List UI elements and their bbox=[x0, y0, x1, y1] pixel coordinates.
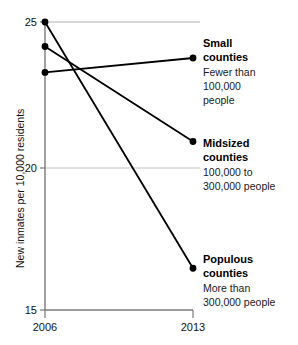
annotation-populous-sub-1: More than bbox=[203, 282, 250, 294]
line-chart: New inmates per 10,000 residents 25 20 1… bbox=[0, 0, 298, 345]
annotation-small-sub-1: Fewer than bbox=[203, 66, 256, 78]
marker-populous-2013 bbox=[190, 265, 197, 272]
annotation-small-sub-3: people bbox=[203, 94, 235, 106]
series-line-populous bbox=[45, 22, 193, 268]
annotation-populous-sub-2: 300,000 people bbox=[203, 296, 276, 308]
annotation-small-head-2: counties bbox=[203, 51, 248, 63]
y-axis-title: New inmates per 10,000 residents bbox=[14, 109, 26, 268]
marker-small-2013 bbox=[190, 55, 197, 62]
annotation-midsized-head-1: Midsized bbox=[203, 137, 249, 149]
marker-small-2006 bbox=[42, 69, 49, 76]
x-tick-label-2013: 2013 bbox=[181, 321, 205, 333]
annotation-populous-head-2: counties bbox=[203, 267, 248, 279]
annotation-midsized-counties: Midsized counties 100,000 to 300,000 peo… bbox=[203, 137, 276, 192]
marker-midsized-2013 bbox=[190, 138, 197, 145]
y-tick-label-20: 20 bbox=[25, 162, 37, 174]
annotation-populous-head-1: Populous bbox=[203, 253, 253, 265]
x-tick-label-2006: 2006 bbox=[33, 321, 57, 333]
annotation-small-sub-2: 100,000 bbox=[203, 80, 241, 92]
marker-populous-2006 bbox=[42, 19, 49, 26]
chart-canvas: New inmates per 10,000 residents 25 20 1… bbox=[0, 0, 298, 345]
y-tick-label-25: 25 bbox=[25, 16, 37, 28]
annotation-midsized-sub-2: 300,000 people bbox=[203, 180, 276, 192]
y-tick-label-15: 15 bbox=[25, 304, 37, 316]
annotation-small-counties: Small counties Fewer than 100,000 people bbox=[203, 37, 256, 106]
annotation-populous-counties: Populous counties More than 300,000 peop… bbox=[203, 253, 276, 308]
annotation-midsized-sub-1: 100,000 to bbox=[203, 166, 253, 178]
annotation-small-head-1: Small bbox=[203, 37, 232, 49]
marker-midsized-2006 bbox=[42, 43, 49, 50]
annotation-midsized-head-2: counties bbox=[203, 151, 248, 163]
